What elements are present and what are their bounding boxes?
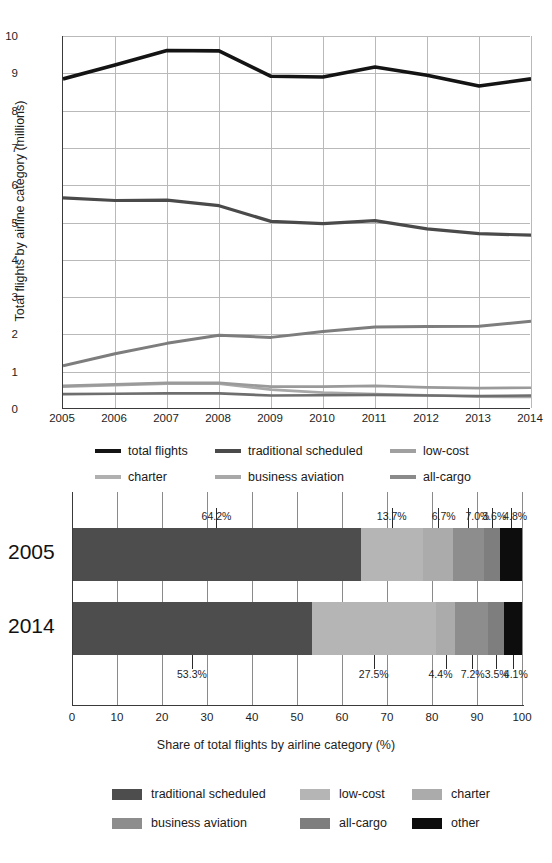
y-tick-label: 6 bbox=[0, 185, 18, 197]
bar-x-tick-label: 0 bbox=[52, 711, 92, 723]
y-tick-label: 9 bbox=[0, 73, 18, 85]
legend-box-swatch-icon bbox=[112, 789, 142, 800]
legend-label: charter bbox=[451, 787, 490, 801]
gridline-vertical bbox=[342, 492, 343, 705]
bar-label-leader-line bbox=[468, 508, 469, 528]
bar-label-leader-line bbox=[511, 508, 512, 528]
y-tick-label: 10 bbox=[0, 36, 18, 48]
line-chart: Total flights by airline category (milli… bbox=[0, 18, 552, 430]
bar-segment-all-cargo bbox=[484, 528, 500, 581]
y-tick-label: 5 bbox=[0, 223, 18, 235]
legend-item-traditional-scheduled[interactable]: traditional scheduled bbox=[112, 787, 266, 801]
x-tick-label: 2011 bbox=[352, 412, 396, 424]
bar-value-label: 4.8% bbox=[498, 510, 532, 522]
bar-chart-x-axis-line bbox=[72, 705, 524, 706]
bar-label-leader-line bbox=[496, 655, 497, 669]
bar-value-label: 4.4% bbox=[424, 668, 458, 680]
figure-page: Total flights by airline category (milli… bbox=[0, 0, 552, 863]
bar-x-tick-label: 40 bbox=[232, 711, 272, 723]
bar-x-tick-label: 80 bbox=[412, 711, 452, 723]
legend-label: low-cost bbox=[423, 444, 469, 458]
bar-label-leader-line bbox=[216, 508, 217, 528]
bar-label-leader-line bbox=[392, 508, 393, 528]
gridline-vertical bbox=[117, 492, 118, 705]
bar-2005 bbox=[72, 528, 522, 581]
legend-item-total-flights[interactable]: total flights bbox=[95, 444, 188, 458]
bar-segment-charter bbox=[423, 528, 453, 581]
bar-label-leader-line bbox=[446, 655, 447, 669]
legend-label: traditional scheduled bbox=[151, 787, 266, 801]
legend-box-swatch-icon bbox=[300, 818, 330, 829]
legend-label: low-cost bbox=[339, 787, 385, 801]
legend-label: all-cargo bbox=[339, 816, 387, 830]
legend-label: business aviation bbox=[151, 816, 247, 830]
legend-line-swatch-icon bbox=[95, 475, 121, 479]
legend-item-charter[interactable]: charter bbox=[95, 470, 167, 484]
legend-line-swatch-icon bbox=[390, 475, 416, 479]
legend-item-other[interactable]: other bbox=[412, 816, 480, 830]
bar-value-label: 53.3% bbox=[175, 668, 209, 680]
bar-x-tick-label: 30 bbox=[187, 711, 227, 723]
legend-label: traditional scheduled bbox=[248, 444, 363, 458]
bar-x-tick-label: 20 bbox=[142, 711, 182, 723]
legend-row: business aviationall-cargoother bbox=[0, 811, 552, 840]
bar-value-label: 6.7% bbox=[427, 510, 461, 522]
legend-box-swatch-icon bbox=[300, 789, 330, 800]
legend-item-low-cost[interactable]: low-cost bbox=[390, 444, 469, 458]
x-tick-label: 2008 bbox=[196, 412, 240, 424]
bar-segment-business-aviation bbox=[453, 528, 485, 581]
x-tick-label: 2005 bbox=[40, 412, 84, 424]
bar-label-leader-line bbox=[438, 508, 439, 528]
bar-chart-y-axis-line bbox=[72, 492, 73, 705]
legend-item-low-cost[interactable]: low-cost bbox=[300, 787, 385, 801]
legend-item-business-aviation[interactable]: business aviation bbox=[215, 470, 344, 484]
legend-label: charter bbox=[128, 470, 167, 484]
bar-segment-charter bbox=[436, 602, 456, 655]
legend-label: all-cargo bbox=[423, 470, 471, 484]
bar-chart-plot-area: 64.2%13.7%6.7%7.0%3.6%4.8%53.3%27.5%4.4%… bbox=[72, 492, 522, 705]
bar-label-leader-line bbox=[192, 655, 193, 669]
bar-segment-business-aviation bbox=[455, 602, 487, 655]
y-tick-label: 2 bbox=[0, 334, 18, 346]
x-tick-label: 2007 bbox=[144, 412, 188, 424]
legend-item-charter[interactable]: charter bbox=[412, 787, 490, 801]
line-series-low-cost bbox=[63, 321, 531, 365]
line-series-group bbox=[63, 36, 531, 409]
bar-segment-traditional-scheduled bbox=[72, 528, 361, 581]
legend-line-swatch-icon bbox=[95, 449, 121, 453]
bar-segment-traditional-scheduled bbox=[72, 602, 312, 655]
legend-item-business-aviation[interactable]: business aviation bbox=[112, 816, 247, 830]
x-tick-label: 2006 bbox=[92, 412, 136, 424]
gridline-vertical bbox=[252, 492, 253, 705]
x-tick-label: 2010 bbox=[300, 412, 344, 424]
legend-row: charterbusiness aviationall-cargo bbox=[0, 466, 552, 492]
bar-x-tick-label: 10 bbox=[97, 711, 137, 723]
legend-label: other bbox=[451, 816, 480, 830]
bar-label-leader-line bbox=[492, 508, 493, 528]
legend-item-all-cargo[interactable]: all-cargo bbox=[300, 816, 387, 830]
legend-row: total flightstraditional scheduledlow-co… bbox=[0, 440, 552, 466]
line-chart-plot-area bbox=[62, 36, 530, 409]
bar-label-leader-line bbox=[374, 655, 375, 669]
x-tick-label: 2013 bbox=[456, 412, 500, 424]
gridline-vertical bbox=[162, 492, 163, 705]
stacked-bar-chart: 64.2%13.7%6.7%7.0%3.6%4.8%53.3%27.5%4.4%… bbox=[0, 492, 552, 752]
legend-label: total flights bbox=[128, 444, 188, 458]
legend-item-traditional-scheduled[interactable]: traditional scheduled bbox=[215, 444, 363, 458]
legend-item-all-cargo[interactable]: all-cargo bbox=[390, 470, 471, 484]
bar-value-label: 4.1% bbox=[499, 668, 533, 680]
bar-chart-x-axis-label: Share of total flights by airline catego… bbox=[0, 738, 552, 752]
gridline-vertical bbox=[297, 492, 298, 705]
bar-label-leader-line bbox=[472, 655, 473, 669]
bar-category-label-2014: 2014 bbox=[8, 614, 55, 638]
y-tick-label: 8 bbox=[0, 111, 18, 123]
legend-line-swatch-icon bbox=[215, 449, 241, 453]
bar-segment-low-cost bbox=[312, 602, 436, 655]
line-series-traditional-scheduled bbox=[63, 198, 531, 235]
bar-x-tick-label: 60 bbox=[322, 711, 362, 723]
legend-label: business aviation bbox=[248, 470, 344, 484]
y-tick-label: 0 bbox=[0, 409, 18, 421]
gridline-vertical bbox=[531, 36, 532, 408]
y-tick-label: 1 bbox=[0, 372, 18, 384]
legend-box-swatch-icon bbox=[412, 789, 442, 800]
